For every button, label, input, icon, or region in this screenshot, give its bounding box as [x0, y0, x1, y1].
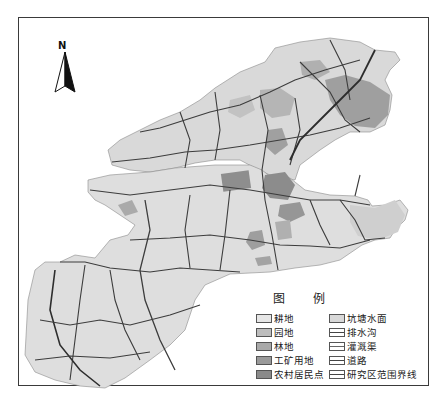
north-arrow-icon	[53, 46, 77, 96]
legend-label: 研究区范围界线	[347, 367, 417, 381]
legend-item-irrigation-canal: 灌溉渠	[329, 339, 417, 353]
legend-item-industrial-land: 工矿用地	[256, 353, 324, 367]
legend-item-rural-settlement: 农村居民点	[256, 367, 324, 381]
rural-settlement-swatch-icon	[256, 370, 272, 379]
irrigation-canal-line-icon	[329, 342, 345, 351]
legend-item-drainage-ditch: 排水沟	[329, 325, 417, 339]
legend-label: 工矿用地	[274, 353, 314, 367]
cropland-swatch-icon	[256, 314, 272, 323]
legend-label: 农村居民点	[274, 367, 324, 381]
legend-item-study-area-boundary: 研究区范围界线	[329, 367, 417, 381]
legend-item-pond-water: 坑塘水面	[329, 311, 417, 325]
legend-label: 灌溉渠	[347, 339, 377, 353]
forest-swatch-icon	[256, 342, 272, 351]
drainage-ditch-line-icon	[329, 328, 345, 337]
pond-water-swatch-icon	[329, 314, 345, 323]
study-area-boundary-line-icon	[329, 370, 345, 379]
legend-label: 耕地	[274, 311, 294, 325]
orchard-swatch-icon	[256, 328, 272, 337]
legend-label: 林地	[274, 339, 294, 353]
legend-item-forest: 林地	[256, 339, 324, 353]
legend: 耕地 园地 林地 工矿用地 农村居民点 坑塘水面 排水沟 灌溉渠	[256, 311, 426, 383]
legend-label: 园地	[274, 325, 294, 339]
legend-column-land-use: 耕地 园地 林地 工矿用地 农村居民点	[256, 311, 324, 381]
legend-item-orchard: 园地	[256, 325, 324, 339]
industrial-land-swatch-icon	[256, 356, 272, 365]
legend-label: 排水沟	[347, 325, 377, 339]
legend-item-road: 道路	[329, 353, 417, 367]
legend-title: 图 例	[273, 289, 337, 306]
road-line-icon	[329, 356, 345, 365]
legend-label: 坑塘水面	[347, 311, 387, 325]
legend-item-cropland: 耕地	[256, 311, 324, 325]
legend-label: 道路	[347, 353, 367, 367]
northern-region	[108, 38, 400, 180]
legend-column-linear-features: 坑塘水面 排水沟 灌溉渠 道路 研究区范围界线	[329, 311, 417, 381]
